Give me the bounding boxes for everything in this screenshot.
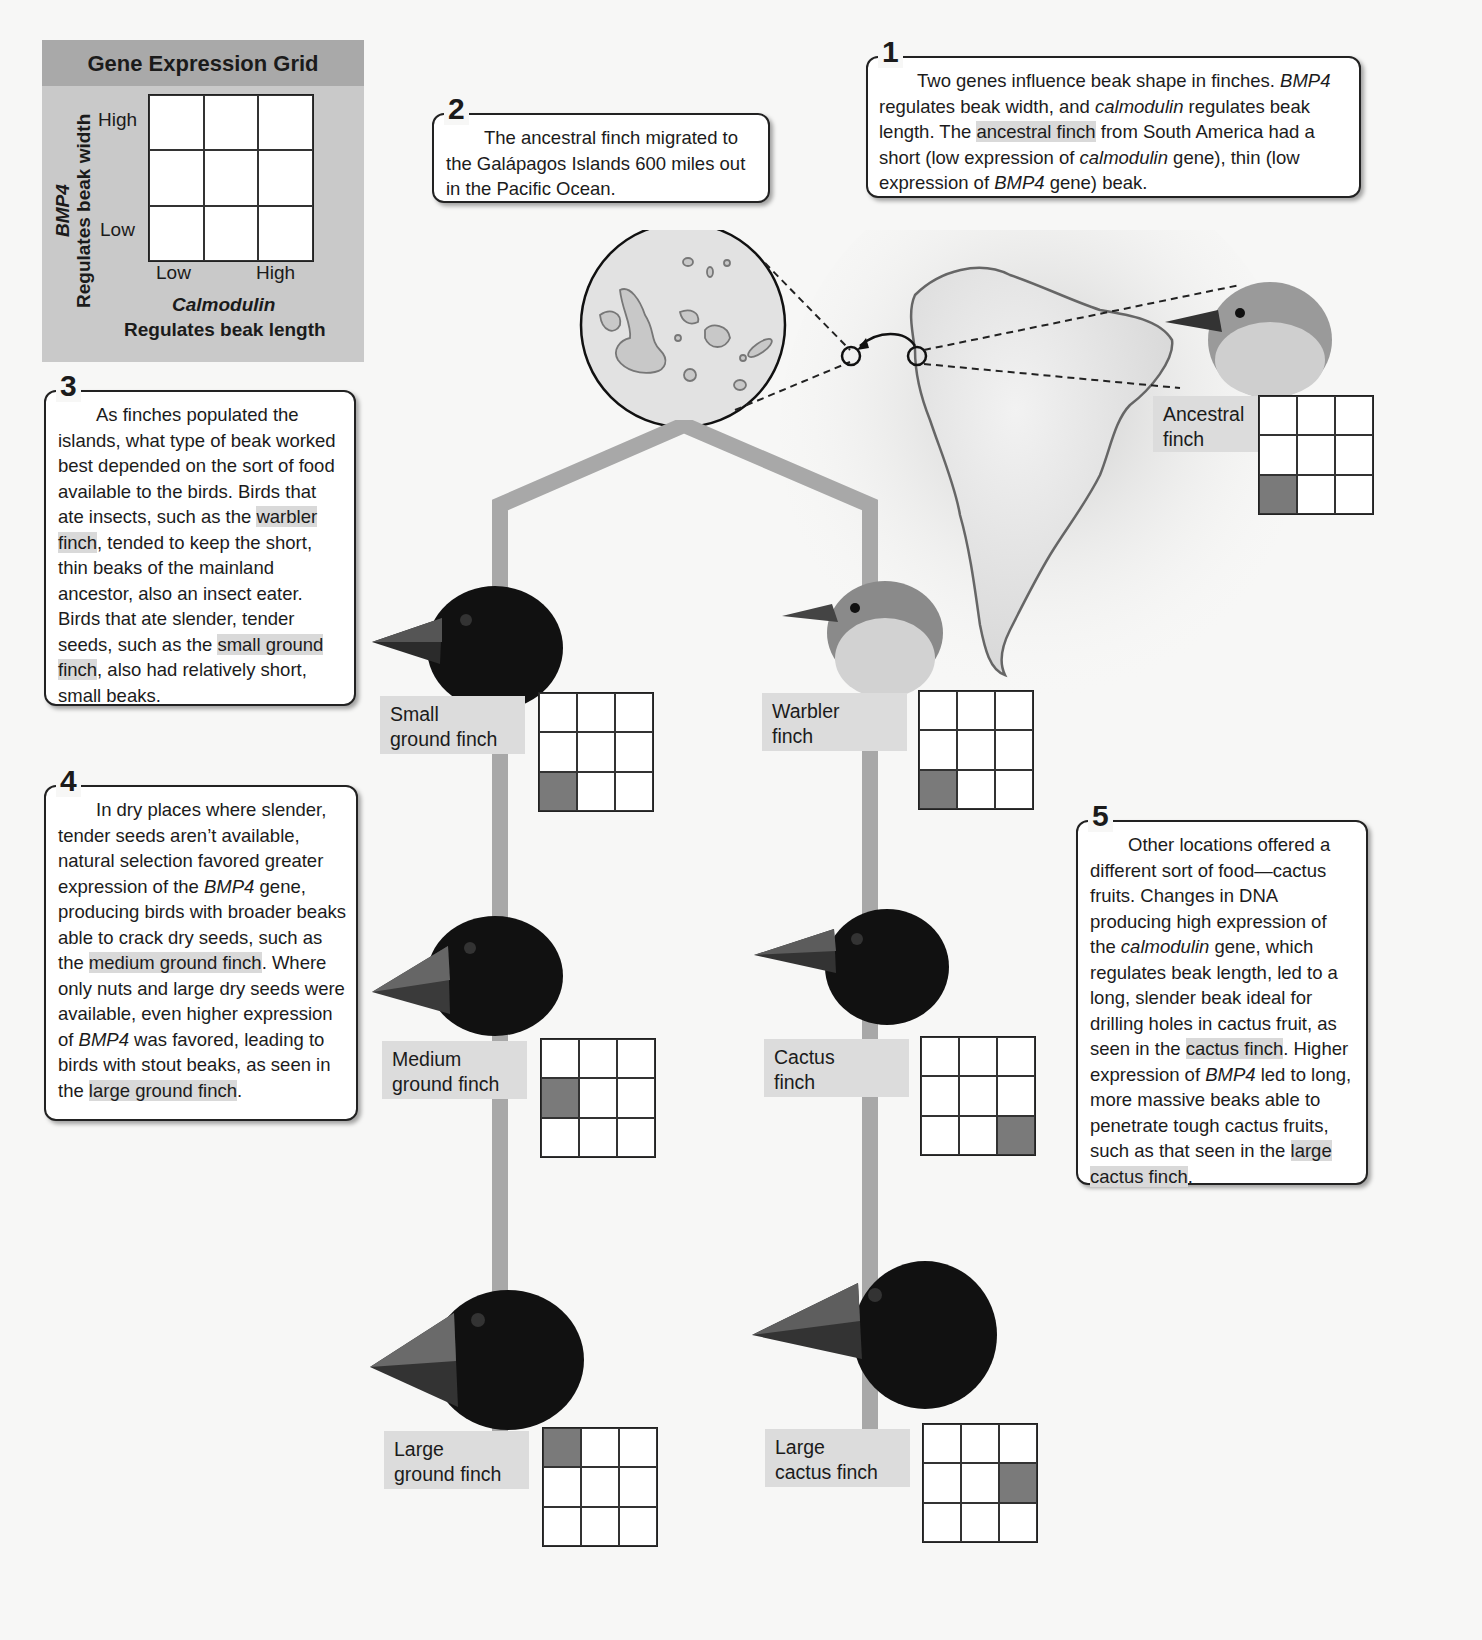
grid-cell: [541, 1118, 579, 1157]
medium-ground-finch-head-illustration: [370, 910, 570, 1040]
large-cactus-finch-head-illustration: [750, 1255, 1000, 1415]
grid-cell: [1335, 396, 1373, 435]
callout-1-number: 1: [878, 36, 903, 68]
grid-cell: [923, 1463, 961, 1502]
grid-cell: [919, 770, 957, 809]
grid-cell: [997, 1037, 1035, 1076]
grid-cell: [921, 1076, 959, 1115]
legend-x-high: High: [256, 262, 295, 284]
grid-cell: [995, 730, 1033, 769]
grid-cell: [577, 732, 615, 771]
grid-cell: [1297, 435, 1335, 474]
grid-cell: [581, 1467, 619, 1506]
grid-large-ground-finch: [542, 1427, 658, 1547]
grid-cell: [1335, 475, 1373, 514]
grid-cell: [995, 691, 1033, 730]
callout-5-number: 5: [1088, 800, 1113, 832]
label-cactus-finch: Cactusfinch: [764, 1039, 909, 1097]
grid-cell: [957, 691, 995, 730]
callout-3-text: As finches populated the islands, what t…: [58, 402, 344, 708]
label-large-cactus-finch: Largecactus finch: [765, 1429, 910, 1487]
grid-cell: [543, 1507, 581, 1546]
grid-cell: [1335, 435, 1373, 474]
cactus-finch-head-illustration: [752, 905, 952, 1030]
callout-2-number: 2: [444, 93, 469, 125]
grid-small-ground-finch: [538, 692, 654, 812]
grid-cell: [959, 1037, 997, 1076]
grid-cell: [577, 693, 615, 732]
grid-cell: [997, 1076, 1035, 1115]
highlighted-species-name: medium ground finch: [89, 952, 262, 973]
grid-cell: [581, 1428, 619, 1467]
grid-cell: [577, 772, 615, 811]
grid-cell: [961, 1463, 999, 1502]
grid-cell: [579, 1039, 617, 1078]
label-warbler-finch: Warblerfinch: [762, 693, 907, 751]
callout-1-text: Two genes influence beak shape in finche…: [879, 68, 1349, 196]
grid-cell: [999, 1463, 1037, 1502]
large-ground-finch-head-illustration: [368, 1285, 588, 1435]
highlighted-species-name: large ground finch: [89, 1080, 237, 1101]
grid-cell: [995, 770, 1033, 809]
legend-x-low: Low: [156, 262, 191, 284]
callout-2-text: The ancestral finch migrated to the Galá…: [446, 125, 758, 202]
grid-large-cactus-finch: [922, 1423, 1038, 1543]
grid-cell: [539, 693, 577, 732]
grid-cell: [961, 1424, 999, 1463]
highlighted-species-name: cactus finch: [1186, 1038, 1284, 1059]
grid-warbler-finch: [918, 690, 1034, 810]
legend-title: Gene Expression Grid: [42, 40, 364, 86]
grid-cell: [923, 1503, 961, 1542]
grid-cell: [541, 1039, 579, 1078]
callout-3-number: 3: [56, 370, 81, 402]
legend-grid: [148, 94, 314, 262]
legend-x-desc: Regulates beak length: [124, 319, 326, 341]
grid-cell: [579, 1078, 617, 1117]
label-small-ground-finch: Smallground finch: [380, 696, 525, 754]
legend-y-desc: Regulates beak width: [73, 114, 95, 308]
grid-cell: [999, 1424, 1037, 1463]
legend-x-gene: Calmodulin: [172, 294, 275, 316]
grid-cell: [921, 1116, 959, 1155]
grid-cell: [617, 1118, 655, 1157]
grid-cell: [1297, 475, 1335, 514]
grid-cell: [961, 1503, 999, 1542]
callout-2: 2 The ancestral finch migrated to the Ga…: [432, 113, 770, 203]
callout-1: 1 Two genes influence beak shape in finc…: [866, 56, 1361, 198]
label-medium-ground-finch: Mediumground finch: [382, 1041, 527, 1099]
grid-cell: [581, 1507, 619, 1546]
grid-cell: [959, 1076, 997, 1115]
grid-cell: [919, 730, 957, 769]
grid-cell: [959, 1116, 997, 1155]
grid-cell: [543, 1428, 581, 1467]
grid-cell: [543, 1467, 581, 1506]
callout-3: 3 As finches populated the islands, what…: [44, 390, 356, 706]
grid-cell: [1259, 396, 1297, 435]
grid-cell: [619, 1467, 657, 1506]
grid-cell: [619, 1428, 657, 1467]
gene-expression-grid-legend: Gene Expression Grid BMP4 Regulates beak…: [42, 40, 364, 362]
label-ancestral-finch: Ancestralfinch: [1153, 396, 1258, 452]
legend-y-low: Low: [100, 219, 135, 241]
grid-ancestral-finch: [1258, 395, 1374, 515]
grid-medium-ground-finch: [540, 1038, 656, 1158]
grid-cell: [997, 1116, 1035, 1155]
grid-cell: [615, 693, 653, 732]
legend-y-high: High: [98, 109, 137, 131]
callout-5: 5 Other locations offered a different so…: [1076, 820, 1368, 1185]
grid-cell: [921, 1037, 959, 1076]
legend-y-gene: BMP4: [52, 184, 74, 237]
grid-cell: [1259, 475, 1297, 514]
grid-cell: [539, 732, 577, 771]
ancestral-finch-head-illustration: [1160, 280, 1335, 400]
grid-cell: [957, 770, 995, 809]
grid-cell: [923, 1424, 961, 1463]
grid-cell: [919, 691, 957, 730]
highlighted-species-name: ancestral finch: [976, 121, 1095, 142]
callout-4-number: 4: [56, 765, 81, 797]
grid-cell: [579, 1118, 617, 1157]
grid-cell: [617, 1039, 655, 1078]
grid-cactus-finch: [920, 1036, 1036, 1156]
label-large-ground-finch: Largeground finch: [384, 1431, 529, 1489]
callout-5-text: Other locations offered a different sort…: [1090, 832, 1356, 1189]
